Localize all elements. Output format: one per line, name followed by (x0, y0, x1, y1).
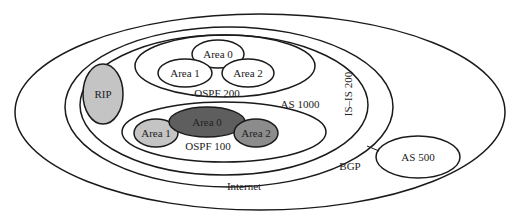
ospf-200-region: Area 0 Area 1 Area 2 OSPF 200 (135, 35, 315, 99)
rip-label: RIP (94, 88, 111, 100)
ospf-200-area-1-label: Area 1 (170, 67, 200, 79)
ospf-200-area-2-label: Area 2 (233, 67, 263, 79)
ospf-200-area-0-label: Area 0 (203, 48, 233, 60)
routing-domains-diagram: Internet IS–IS 200 AS 1000 RIP Area 0 Ar… (0, 0, 517, 224)
ospf-100-area-1-label: Area 1 (141, 127, 171, 139)
bgp-link: BGP (339, 146, 379, 172)
as-500-label: AS 500 (401, 151, 435, 163)
ospf-200-label: OSPF 200 (194, 87, 240, 99)
as-500-region: AS 500 (376, 136, 460, 178)
isis-200-label: IS–IS 200 (342, 71, 354, 116)
ospf-100-region: Area 1 Area 0 Area 2 OSPF 100 (122, 102, 326, 162)
ospf-100-area-2-label: Area 2 (241, 127, 271, 139)
ospf-100-area-0-label: Area 0 (192, 116, 222, 128)
rip-region: RIP (83, 64, 123, 124)
bgp-label: BGP (339, 160, 360, 172)
ospf-100-label: OSPF 100 (185, 140, 231, 152)
